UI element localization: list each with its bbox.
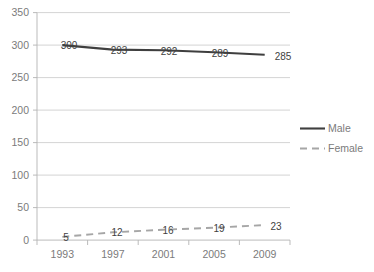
data-label-male-1997: 293 — [111, 45, 128, 56]
y-axis-label-250: 250 — [11, 71, 29, 83]
y-axis-label-0: 0 — [23, 234, 29, 246]
chart-legend: Male Female — [300, 122, 363, 154]
data-labels-female: 5 12 16 19 23 — [63, 221, 282, 243]
x-axis-label-2001: 2001 — [152, 248, 176, 260]
y-axis-label-300: 300 — [11, 39, 29, 51]
x-axis-label-2005: 2005 — [202, 248, 226, 260]
legend-label-female: Female — [328, 142, 363, 154]
data-label-female-1997: 12 — [111, 227, 123, 238]
x-axis-label-1997: 1997 — [101, 248, 125, 260]
data-label-male-2009: 285 — [275, 51, 292, 62]
legend-item-male[interactable]: Male — [300, 122, 351, 134]
line-chart: 350 300 250 200 150 100 50 0 1993 1997 2… — [0, 0, 374, 272]
y-axis-label-50: 50 — [17, 201, 29, 213]
y-axis-labels: 350 300 250 200 150 100 50 0 — [11, 6, 29, 246]
data-label-male-2005: 289 — [212, 48, 229, 59]
chart-canvas: 350 300 250 200 150 100 50 0 1993 1997 2… — [0, 0, 374, 272]
x-axis-labels: 1993 1997 2001 2005 2009 — [51, 248, 277, 260]
data-label-female-2009: 23 — [270, 221, 282, 232]
data-labels-male: 300 293 292 289 285 — [61, 40, 292, 62]
x-axis-label-2009: 2009 — [253, 248, 277, 260]
y-axis-label-350: 350 — [11, 6, 29, 18]
y-tickmarks — [33, 13, 37, 241]
x-axis-label-1993: 1993 — [51, 248, 75, 260]
data-label-female-1993: 5 — [63, 232, 69, 243]
y-axis-label-150: 150 — [11, 136, 29, 148]
y-axis-label-100: 100 — [11, 169, 29, 181]
x-tickmarks — [37, 240, 290, 245]
data-label-male-2001: 292 — [161, 46, 178, 57]
legend-item-female[interactable]: Female — [300, 142, 363, 154]
legend-label-male: Male — [328, 122, 351, 134]
y-axis-label-200: 200 — [11, 104, 29, 116]
data-label-female-2001: 16 — [162, 225, 174, 236]
data-label-female-2005: 19 — [213, 223, 225, 234]
data-label-male-1993: 300 — [61, 40, 78, 51]
